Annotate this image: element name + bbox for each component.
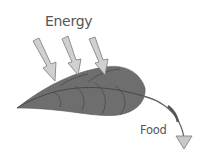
leaf-diagram [0,0,200,151]
energy-arrow-icon [33,38,56,81]
food-arrow-icon [176,136,192,149]
leaf-shape [17,66,145,115]
food-label: Food [140,123,166,137]
energy-arrow-icon [62,36,81,75]
energy-label: Energy [45,13,92,29]
